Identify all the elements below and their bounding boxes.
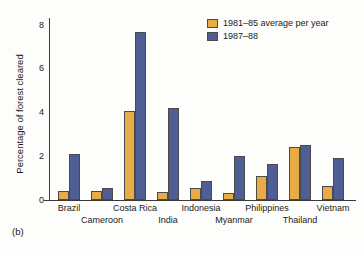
bar-thailand-series-2 xyxy=(300,145,311,200)
x-axis-line xyxy=(44,200,356,201)
bar-philippines-series-2 xyxy=(267,164,278,200)
x-tick-label-india: India xyxy=(158,215,178,225)
legend-item-1: 1981–85 average per year xyxy=(207,18,329,28)
bar-india-series-2 xyxy=(168,108,179,200)
legend-swatch-icon xyxy=(207,19,218,28)
x-tick-label-cameroon: Cameroon xyxy=(81,215,123,225)
y-tick-label: 4 xyxy=(30,108,44,117)
panel-label: (b) xyxy=(12,227,24,237)
bar-vietnam-series-2 xyxy=(333,158,344,200)
bar-costa-rica-series-1 xyxy=(124,111,135,200)
x-tick-label-myanmar: Myanmar xyxy=(215,215,253,225)
y-axis-title: Percentage of forest cleared xyxy=(15,24,25,204)
x-tick-label-brazil: Brazil xyxy=(58,203,81,213)
x-tick-label-indonesia: Indonesia xyxy=(181,203,220,213)
plot-area xyxy=(49,18,355,200)
figure-panel: Percentage of forest cleared 02468 Brazi… xyxy=(0,0,364,254)
bar-brazil-series-2 xyxy=(69,154,80,200)
legend-swatch-icon xyxy=(207,32,218,41)
y-axis-tick-labels: 02468 xyxy=(30,0,44,254)
legend-item-2: 1987–88 xyxy=(207,31,329,41)
bar-india-series-1 xyxy=(157,192,168,200)
x-tick-label-vietnam: Vietnam xyxy=(317,203,350,213)
bar-vietnam-series-1 xyxy=(322,186,333,200)
x-tick-label-thailand: Thailand xyxy=(283,215,318,225)
y-tick-label: 6 xyxy=(30,64,44,73)
bar-brazil-series-1 xyxy=(58,191,69,200)
x-tick-label-costa-rica: Costa Rica xyxy=(113,203,157,213)
bar-myanmar-series-1 xyxy=(223,193,234,200)
x-tick-label-philippines: Philippines xyxy=(245,203,289,213)
legend-label: 1987–88 xyxy=(223,31,258,41)
bar-thailand-series-1 xyxy=(289,147,300,200)
y-tick-label: 8 xyxy=(30,20,44,29)
bar-philippines-series-1 xyxy=(256,176,267,200)
y-tick-label: 0 xyxy=(30,196,44,205)
y-tick-label: 2 xyxy=(30,152,44,161)
bar-indonesia-series-2 xyxy=(201,181,212,200)
bar-indonesia-series-1 xyxy=(190,188,201,200)
bar-cameroon-series-2 xyxy=(102,188,113,200)
legend-label: 1981–85 average per year xyxy=(223,18,329,28)
bar-myanmar-series-2 xyxy=(234,156,245,200)
bar-cameroon-series-1 xyxy=(91,191,102,200)
chart-legend: 1981–85 average per year1987–88 xyxy=(207,18,329,41)
bar-costa-rica-series-2 xyxy=(135,32,146,200)
